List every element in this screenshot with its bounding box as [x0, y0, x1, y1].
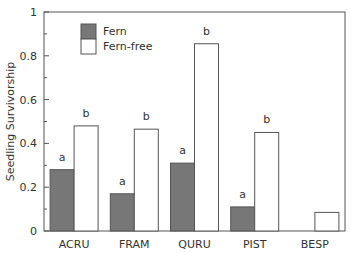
- bar-fern-free-fram: [134, 129, 158, 231]
- bar-fern-pist: [231, 207, 255, 231]
- legend-label: Fern-free: [103, 40, 153, 53]
- bar-fern-fram: [110, 194, 134, 231]
- x-tick-label: FRAM: [119, 238, 150, 251]
- y-tick-label: 0.2: [20, 181, 38, 194]
- legend-label: Fern: [103, 25, 127, 38]
- y-axis-label: Seedling Survivorship: [4, 62, 17, 182]
- x-tick-label: BESP: [301, 238, 329, 251]
- bar-fern-acru: [50, 170, 74, 231]
- legend-swatch-fern: [81, 24, 96, 39]
- bar-chart: 00.20.40.60.81Seedling SurvivorshipabACR…: [0, 0, 351, 253]
- significance-letter: a: [119, 175, 126, 188]
- bar-fern-free-acru: [74, 126, 98, 231]
- bar-fern-free-besp: [315, 212, 339, 231]
- plot-area: 00.20.40.60.81Seedling SurvivorshipabACR…: [4, 6, 345, 251]
- significance-letter: b: [203, 25, 210, 38]
- significance-letter: b: [83, 107, 90, 120]
- y-tick-label: 0.6: [20, 94, 38, 107]
- bar-fern-quru: [171, 163, 195, 231]
- y-tick-label: 0.8: [20, 50, 38, 63]
- significance-letter: b: [263, 113, 270, 126]
- significance-letter: a: [239, 188, 246, 201]
- bar-fern-free-pist: [255, 132, 279, 231]
- significance-letter: b: [143, 110, 150, 123]
- x-tick-label: ACRU: [59, 238, 90, 251]
- x-tick-label: QURU: [178, 238, 210, 251]
- legend-swatch-fern-free: [81, 39, 96, 54]
- significance-letter: a: [59, 151, 66, 164]
- bar-fern-free-quru: [195, 44, 219, 231]
- significance-letter: a: [179, 144, 186, 157]
- y-tick-label: 0.4: [20, 137, 38, 150]
- x-tick-label: PIST: [243, 238, 267, 251]
- y-tick-label: 1: [30, 6, 37, 19]
- y-tick-label: 0: [30, 225, 37, 238]
